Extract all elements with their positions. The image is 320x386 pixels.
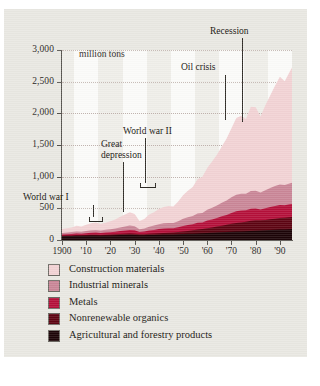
legend-swatch [48,330,60,342]
y-axis-tick [57,50,62,51]
x-axis-tick [159,241,160,245]
annotation-label-recession: Recession [210,26,249,37]
annotation-leader-oil-crisis [225,75,226,120]
x-axis-label: '60 [202,246,213,256]
x-axis-tick [110,241,111,245]
annotation-leader-world-war-i [93,205,94,217]
legend-label: Metals [69,296,98,307]
annotation-leader-great-depression [123,162,124,212]
x-axis-label: '90 [274,246,285,256]
x-axis-tick [86,241,87,245]
y-axis-label: 1,000 [8,171,54,181]
annotation-label-world-war-ii: World war II [123,126,172,137]
chart-figure: 05001,0001,5002,0002,5003,000 1900'10'20… [0,0,320,386]
y-axis-label: 2,500 [8,76,54,86]
y-axis-tick [57,113,62,114]
annotation-bracket-world-war-ii [140,183,156,188]
x-axis-tick [280,241,281,245]
annotation-label-oil-crisis: Oil crisis [181,62,216,73]
annotation-label-great-depression-1: Great [101,139,122,150]
x-axis-label: '30 [129,246,140,256]
x-axis-tick [62,241,63,245]
x-axis-label: 1900 [53,246,72,256]
annotation-label-great-depression-2: depression [101,150,142,161]
y-axis-label: 3,000 [8,44,54,54]
x-axis-line [62,240,293,241]
y-axis-tick [57,82,62,83]
y-axis-label: 2,000 [8,107,54,117]
y-axis-label: 1,500 [8,139,54,149]
annotation-leader-recession [242,38,243,122]
y-axis-tick [57,208,62,209]
y-axis-tick [57,177,62,178]
x-axis-label: '40 [153,246,164,256]
y-axis-label: 500 [8,202,54,212]
annotation-label-world-war-i: World war I [23,192,69,203]
units-label: million tons [79,49,125,59]
x-axis-label: '80 [250,246,261,256]
legend-swatch [48,264,60,276]
legend-swatch [48,297,60,309]
legend-label: Industrial minerals [69,279,148,290]
plot-area [62,50,292,240]
annotation-bracket-world-war-i [89,217,103,222]
y-axis-tick [57,145,62,146]
x-axis-label: '10 [81,246,92,256]
x-axis-tick [207,241,208,245]
legend-swatch [48,313,60,325]
x-axis-tick [231,241,232,245]
legend-label: Agricultural and forestry products [69,329,212,340]
annotation-leader-world-war-ii [145,138,146,183]
x-axis-label: '70 [226,246,237,256]
x-axis-tick [256,241,257,245]
x-axis-label: '20 [105,246,116,256]
chart-card: 05001,0001,5002,0002,5003,000 1900'10'20… [4,9,307,357]
x-axis-tick [135,241,136,245]
legend-label: Construction materials [69,263,164,274]
x-axis-tick [183,241,184,245]
legend-swatch [48,280,60,292]
legend-label: Nonrenewable organics [69,312,168,323]
stacked-area-series [62,50,292,240]
y-axis-label: 0 [8,234,54,244]
x-axis-label: '50 [177,246,188,256]
